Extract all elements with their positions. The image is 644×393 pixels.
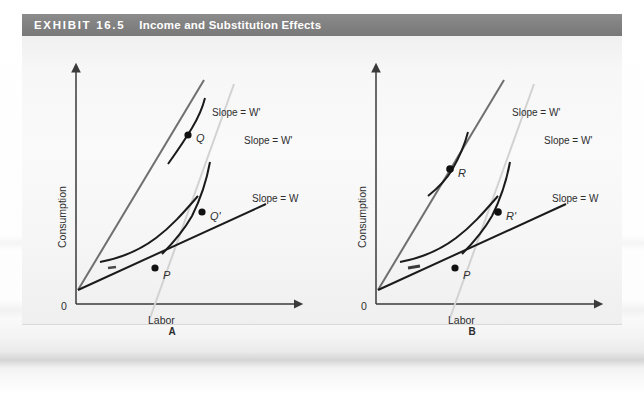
budget-line-w-prime — [78, 80, 204, 290]
chart-panel-b: R R' P Slope = W' Slope = W' Slope = W 0… — [322, 36, 622, 324]
point-r-prime — [494, 208, 502, 216]
point-q — [184, 131, 191, 138]
panel-caption-b: B — [322, 326, 622, 337]
point-label-r: R — [458, 167, 466, 179]
y-axis-label: Consumption — [356, 186, 368, 248]
point-label-p: P — [463, 269, 471, 281]
line-marker — [408, 266, 420, 268]
indifference-curve-r — [428, 132, 468, 196]
annotation-slope-w-prime-upper: Slope = W' — [512, 107, 560, 118]
y-axis-label: Consumption — [56, 186, 68, 248]
origin-label: 0 — [61, 300, 67, 312]
annotation-slope-w-prime-lower: Slope = W' — [544, 135, 592, 146]
annotation-slope-w-prime-lower: Slope = W' — [244, 135, 292, 146]
point-p — [151, 264, 158, 271]
exhibit-header: EXHIBIT 16.5 Income and Substitution Eff… — [34, 14, 321, 36]
budget-line-w-prime-compensated — [150, 84, 234, 318]
budget-line-w — [378, 204, 566, 290]
x-axis-label: Labor — [148, 314, 175, 324]
panel-caption-a: A — [22, 326, 322, 337]
exhibit-title: Income and Substitution Effects — [139, 19, 321, 31]
budget-line-w — [78, 204, 266, 290]
point-label-p: P — [163, 269, 171, 281]
point-r — [446, 165, 454, 173]
panel-a-svg: Q Q' P Slope = W' Slope = W' Slope = W 0… — [22, 36, 322, 324]
point-q-prime — [198, 208, 205, 215]
scan-artifact-band — [0, 352, 644, 368]
point-p — [451, 264, 458, 271]
point-label-q: Q — [196, 132, 205, 144]
panel-b-svg: R R' P Slope = W' Slope = W' Slope = W 0… — [322, 36, 622, 324]
annotation-slope-w: Slope = W — [252, 193, 299, 204]
line-marker — [108, 267, 116, 268]
exhibit-figure: EXHIBIT 16.5 Income and Substitution Eff… — [22, 14, 622, 346]
chart-panel-a: Q Q' P Slope = W' Slope = W' Slope = W 0… — [22, 36, 322, 324]
exhibit-body: Q Q' P Slope = W' Slope = W' Slope = W 0… — [22, 36, 622, 325]
point-label-q-prime: Q' — [210, 210, 222, 222]
origin-label: 0 — [361, 300, 367, 312]
x-axis-label: Labor — [448, 314, 475, 324]
exhibit-number: EXHIBIT 16.5 — [34, 19, 125, 31]
budget-line-w-prime-compensated — [450, 84, 534, 318]
annotation-slope-w: Slope = W — [552, 193, 599, 204]
point-label-r-prime: R' — [506, 210, 517, 222]
scanned-page: EXHIBIT 16.5 Income and Substitution Eff… — [0, 0, 644, 393]
annotation-slope-w-prime-upper: Slope = W' — [212, 107, 260, 118]
